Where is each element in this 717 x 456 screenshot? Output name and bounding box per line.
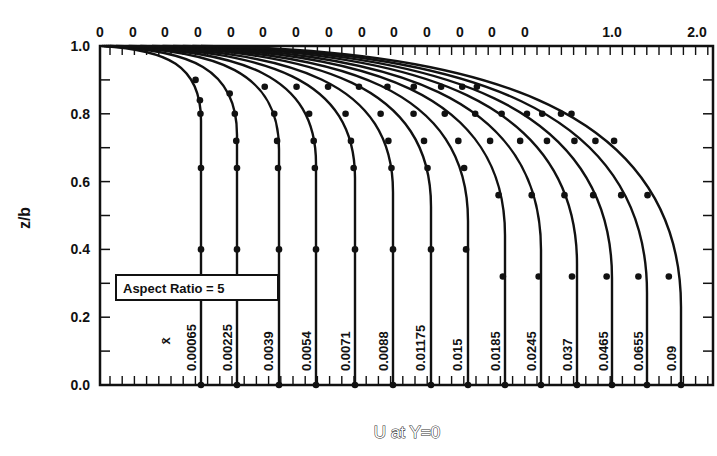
svg-text:0.0655: 0.0655 — [631, 331, 646, 371]
data-point — [198, 382, 205, 389]
curve-label-0.0071: 0.0071 — [338, 331, 353, 371]
data-point — [539, 111, 546, 118]
svg-text:0.0054: 0.0054 — [299, 330, 314, 371]
data-point — [590, 192, 597, 199]
svg-text:0.0465: 0.0465 — [596, 331, 611, 371]
data-point — [306, 111, 313, 118]
data-point — [472, 111, 479, 118]
svg-text:0.037: 0.037 — [560, 338, 575, 371]
top-tick-label: 1.0 — [602, 24, 622, 40]
curve-label-0.09: 0.09 — [664, 346, 679, 371]
data-point — [310, 138, 317, 145]
data-point — [644, 382, 651, 389]
y-tick-label: 0.2 — [71, 309, 91, 325]
data-point — [388, 165, 395, 172]
data-point — [234, 382, 241, 389]
data-point — [352, 246, 359, 253]
data-point — [438, 83, 445, 90]
data-point — [568, 111, 575, 118]
data-point — [487, 138, 494, 145]
data-point — [474, 83, 481, 90]
data-point — [197, 97, 204, 104]
svg-text:0.0071: 0.0071 — [338, 331, 353, 371]
data-point — [524, 111, 531, 118]
curve-label-0.00225: 0.00225 — [220, 324, 235, 371]
data-point — [428, 382, 435, 389]
curve-label-0.0039: 0.0039 — [261, 331, 276, 371]
svg-text:0.0039: 0.0039 — [261, 331, 276, 371]
top-tick-label: 0 — [227, 24, 235, 40]
data-point — [377, 111, 384, 118]
data-point — [275, 165, 282, 172]
svg-text:0.0088: 0.0088 — [376, 331, 391, 371]
top-tick-label: 0 — [161, 24, 169, 40]
svg-text:x̄: x̄ — [158, 337, 173, 345]
data-point — [502, 382, 509, 389]
top-tick-label: 2.0 — [687, 24, 707, 40]
data-point — [461, 165, 468, 172]
top-tick-label: 0 — [423, 24, 431, 40]
svg-text:0.00225: 0.00225 — [220, 324, 235, 371]
data-point — [603, 273, 610, 280]
data-point — [678, 382, 685, 389]
svg-text:0.09: 0.09 — [664, 346, 679, 371]
data-point — [232, 111, 239, 118]
data-point — [571, 138, 578, 145]
top-tick-label: 0 — [456, 24, 464, 40]
data-point — [538, 382, 545, 389]
top-tick-label: 0 — [292, 24, 300, 40]
data-point — [276, 246, 283, 253]
top-tick-label: 0 — [521, 24, 529, 40]
svg-text:0.00065: 0.00065 — [184, 324, 199, 371]
data-point — [410, 111, 417, 118]
top-tick-label: 0 — [194, 24, 202, 40]
data-point — [293, 83, 300, 90]
data-point — [609, 382, 616, 389]
top-tick-label: 0 — [358, 24, 366, 40]
svg-text:0.0245: 0.0245 — [524, 331, 539, 371]
data-point — [276, 382, 283, 389]
data-point — [312, 165, 319, 172]
data-point — [271, 111, 278, 118]
data-point — [500, 273, 507, 280]
data-point — [325, 83, 332, 90]
data-point — [198, 165, 205, 172]
curve-label-0.0185: 0.0185 — [488, 331, 503, 371]
data-point — [348, 138, 355, 145]
x-bar-symbol: x̄ — [158, 337, 173, 345]
data-point — [618, 192, 625, 199]
data-point — [356, 83, 363, 90]
data-point — [574, 382, 581, 389]
y-tick-label: 0.4 — [71, 241, 91, 257]
curve-label-0.00065: 0.00065 — [184, 324, 199, 371]
top-tick-label: 0 — [96, 24, 104, 40]
data-point — [350, 165, 357, 172]
data-point — [390, 246, 397, 253]
top-tick-label: 0 — [390, 24, 398, 40]
data-point — [384, 83, 391, 90]
data-point — [234, 165, 241, 172]
aspect-ratio-label: Aspect Ratio = 5 — [123, 281, 225, 296]
data-point — [528, 192, 535, 199]
svg-text:0.01175: 0.01175 — [413, 325, 428, 371]
data-point — [635, 273, 642, 280]
data-point — [274, 138, 281, 145]
data-point — [385, 138, 392, 145]
data-point — [313, 246, 320, 253]
curve-label-0.0088: 0.0088 — [376, 331, 391, 371]
data-point — [198, 246, 205, 253]
svg-text:z/b: z/b — [16, 207, 33, 229]
top-tick-label: 0 — [259, 24, 267, 40]
data-point — [517, 138, 524, 145]
data-point — [498, 111, 505, 118]
data-point — [424, 165, 431, 172]
top-tick-label: 0 — [325, 24, 333, 40]
curve-label-0.0655: 0.0655 — [631, 331, 646, 371]
data-point — [192, 77, 199, 84]
data-point — [352, 382, 359, 389]
data-point — [421, 138, 428, 145]
curve-label-0.015: 0.015 — [450, 338, 465, 371]
y-tick-label: 0.0 — [71, 377, 91, 393]
data-point — [561, 192, 568, 199]
y-tick-label: 0.8 — [71, 106, 91, 122]
